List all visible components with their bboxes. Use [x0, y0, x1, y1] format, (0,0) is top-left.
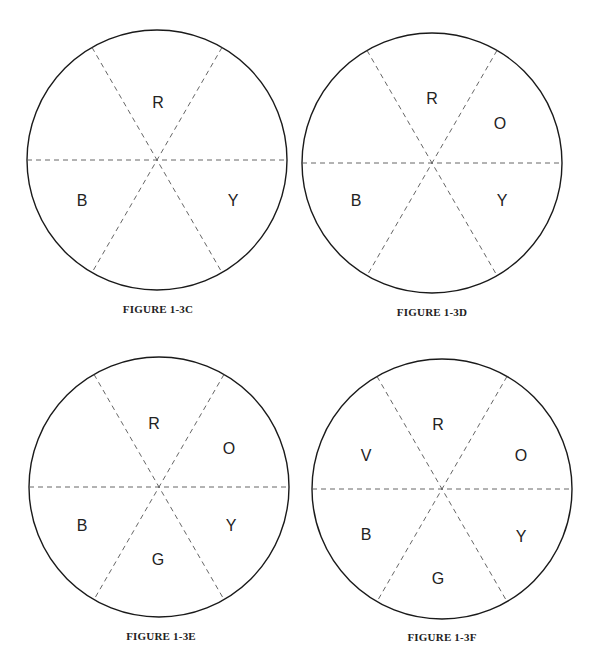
segment-label-v: V [361, 447, 372, 464]
figure-1-3e: ROBYG [29, 357, 289, 617]
segment-label-r: R [148, 415, 160, 432]
figure-1-3f: RVOBYG [312, 359, 572, 619]
segment-label-b: B [361, 526, 372, 543]
segment-label-o: O [223, 440, 235, 457]
segment-label-r: R [432, 416, 444, 433]
segment-label-r: R [426, 90, 438, 107]
caption-figure-1-3c: FIGURE 1-3C [123, 303, 193, 315]
caption-figure-1-3f: FIGURE 1-3F [407, 631, 476, 643]
caption-figure-1-3d: FIGURE 1-3D [397, 306, 467, 318]
segment-label-o: O [515, 447, 527, 464]
figure-1-3d: ROBY [302, 33, 562, 293]
caption-figure-1-3e: FIGURE 1-3E [126, 630, 196, 642]
segment-label-y: Y [228, 192, 239, 209]
segment-label-y: Y [516, 528, 527, 545]
color-wheel-figures: RBY ROBY ROBYG RVOBYG [0, 0, 595, 665]
segment-label-r: R [152, 94, 164, 111]
segment-label-y: Y [497, 192, 508, 209]
segment-label-b: B [351, 192, 362, 209]
segment-label-g: G [432, 570, 444, 587]
segment-label-o: O [494, 115, 506, 132]
segment-label-g: G [152, 551, 164, 568]
figure-1-3c: RBY [27, 30, 287, 290]
segment-label-y: Y [226, 517, 237, 534]
segment-label-b: B [77, 192, 88, 209]
segment-label-b: B [77, 517, 88, 534]
